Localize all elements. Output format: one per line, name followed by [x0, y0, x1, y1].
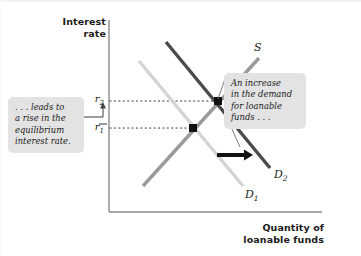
- callout-right-line2: in the demand: [231, 89, 299, 100]
- curve-label-demand1-sub: 1: [254, 194, 259, 203]
- callout-left-line3: equilibrium: [15, 125, 77, 136]
- callout-right-line3: for loanable: [231, 101, 299, 112]
- figure-canvas: Interest rate Quantity of loanable funds…: [0, 0, 361, 256]
- y-tick-label-r2: r2: [88, 93, 104, 107]
- x-axis-title-line1: Quantity of: [232, 222, 324, 234]
- curve-label-demand1: D1: [245, 188, 259, 203]
- tick-r1-sub: 1: [100, 127, 104, 135]
- curve-label-demand2: D2: [274, 168, 288, 183]
- equilibrium-point-e1: [189, 124, 197, 132]
- equilibrium-guide-lines: [110, 101, 218, 128]
- curve-label-demand2-sub: 2: [283, 174, 288, 183]
- curve-label-demand1-base: D: [245, 188, 254, 201]
- callout-left-line2: a rise in the: [15, 113, 77, 124]
- callout-right-line4: funds . . .: [231, 112, 299, 123]
- y-tick-label-r1: r1: [88, 121, 104, 135]
- curve-label-supply: S: [254, 41, 262, 56]
- callout-left-equilibrium-rise: . . . leads to a rise in the equilibrium…: [8, 97, 84, 153]
- tick-r2-sub: 2: [100, 99, 104, 107]
- callout-right-demand-increase: An increase in the demand for loanable f…: [224, 73, 306, 129]
- callout-left-line1: . . . leads to: [15, 102, 77, 113]
- y-axis-title-line1: Interest: [42, 16, 106, 28]
- y-axis-title-line2: rate: [42, 28, 106, 40]
- curve-label-supply-base: S: [254, 41, 262, 54]
- callout-right-line1: An increase: [231, 78, 299, 89]
- y-axis-title: Interest rate: [42, 16, 106, 39]
- curve-label-demand2-base: D: [274, 168, 283, 181]
- x-axis-title: Quantity of loanable funds: [232, 222, 324, 245]
- callout-left-line4: interest rate.: [15, 136, 77, 147]
- x-axis-title-line2: loanable funds: [232, 234, 324, 246]
